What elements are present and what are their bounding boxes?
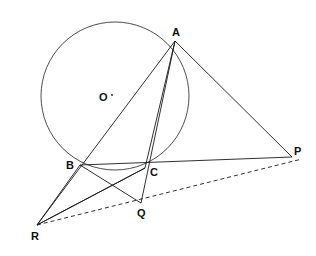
segment-C-to-R	[37, 168, 145, 225]
segment-B-to-P-through-C	[80, 157, 292, 165]
point-label-o: O	[99, 92, 108, 103]
segment-A-to-P	[175, 41, 292, 157]
point-label-r: R	[31, 231, 39, 242]
point-label-c: C	[150, 167, 158, 178]
point-label-q: Q	[137, 208, 146, 219]
geometry-canvas	[0, 0, 316, 256]
segment-A-to-Q-through-C	[141, 41, 175, 203]
geometry-figure: A B C O P Q R	[0, 0, 316, 256]
segment-R-to-A-through-B	[37, 41, 175, 225]
center-mark-dot	[111, 94, 113, 96]
point-label-a: A	[172, 27, 180, 38]
point-label-b: B	[66, 160, 74, 171]
circumcircle	[41, 22, 189, 170]
point-label-p: P	[294, 146, 301, 157]
